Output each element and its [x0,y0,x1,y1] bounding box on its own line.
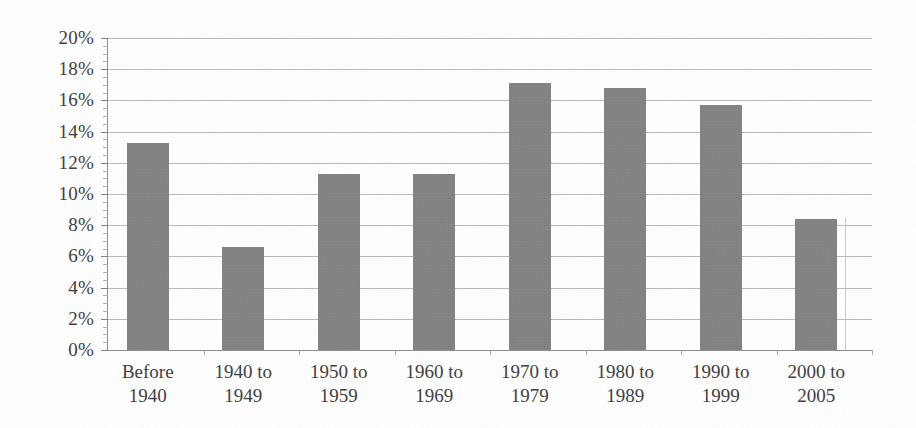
bar-chart: 0%2%4%6%8%10%12%14%16%18%20% Before19401… [0,0,916,428]
x-tick-label-line2: 1999 [673,384,769,408]
x-tick-label-line1: 1950 to [291,360,387,384]
y-tick-major [101,288,108,289]
y-tick-major [101,319,108,320]
x-tick-label-line2: 1940 [100,384,196,408]
x-tick-label: Before1940 [100,360,196,408]
x-tick-label-line1: 1940 to [196,360,292,384]
x-tick-mark [395,350,396,355]
y-tick-minor [103,116,108,117]
x-tick-label-line2: 2005 [769,384,865,408]
bar [413,174,455,350]
x-tick-mark [299,350,300,355]
y-tick-minor [103,171,108,172]
bar [700,105,742,350]
x-tick-label-line1: 1990 to [673,360,769,384]
x-tick-label-line1: 1970 to [482,360,578,384]
y-tick-minor [103,334,108,335]
bar [509,83,551,350]
x-tick-label: 1970 to1979 [482,360,578,408]
bar [222,247,264,350]
y-tick-minor [103,280,108,281]
gridline [108,100,872,101]
gridline [108,225,872,226]
bar [795,219,837,350]
y-tick-minor [103,233,108,234]
y-tick-label: 20% [32,28,94,47]
y-tick-minor [103,202,108,203]
y-tick-major [101,225,108,226]
x-tick-label-line1: 2000 to [769,360,865,384]
x-tick-label: 2000 to2005 [769,360,865,408]
x-axis-labels: Before19401940 to19491950 to19591960 to1… [0,360,916,420]
y-tick-minor [103,249,108,250]
y-tick-minor [103,327,108,328]
gridline [108,38,872,39]
y-tick-major [101,194,108,195]
y-tick-minor [103,108,108,109]
y-tick-minor [103,178,108,179]
y-tick-label: 12% [32,153,94,172]
y-tick-major [101,256,108,257]
gridline [108,132,872,133]
y-tick-major [101,38,108,39]
y-tick-label: 10% [32,184,94,203]
y-tick-minor [103,303,108,304]
bar [318,174,360,350]
y-tick-label: 14% [32,122,94,141]
y-tick-major [101,132,108,133]
y-tick-major [101,350,108,351]
y-tick-minor [103,46,108,47]
y-tick-label: 4% [32,278,94,297]
bar [127,143,169,350]
y-tick-minor [103,241,108,242]
y-tick-label: 2% [32,309,94,328]
x-tick-label: 1940 to1949 [196,360,292,408]
x-tick-label: 1990 to1999 [673,360,769,408]
y-tick-label: 8% [32,215,94,234]
y-tick-minor [103,77,108,78]
y-tick-minor [103,186,108,187]
y-tick-major [101,100,108,101]
y-tick-minor [103,93,108,94]
x-tick-label-line2: 1979 [482,384,578,408]
x-tick-label-line2: 1989 [578,384,674,408]
y-tick-major [101,163,108,164]
x-tick-mark [777,350,778,355]
gridline [108,163,872,164]
plot-area [108,38,872,350]
y-tick-label: 6% [32,246,94,265]
y-tick-minor [103,264,108,265]
bar [604,88,646,350]
x-tick-label-line1: Before [100,360,196,384]
y-tick-minor [103,61,108,62]
x-tick-label: 1980 to1989 [578,360,674,408]
y-tick-minor [103,155,108,156]
gridline [108,69,872,70]
x-tick-label-line1: 1960 to [387,360,483,384]
x-tick-label-line2: 1949 [196,384,292,408]
gridline [108,194,872,195]
y-tick-label: 0% [32,340,94,359]
y-tick-minor [103,295,108,296]
y-tick-label: 18% [32,59,94,78]
y-tick-minor [103,210,108,211]
y-tick-minor [103,124,108,125]
y-tick-minor [103,54,108,55]
y-tick-minor [103,272,108,273]
y-tick-major [101,69,108,70]
x-tick-mark [204,350,205,355]
y-tick-minor [103,85,108,86]
x-tick-mark [490,350,491,355]
x-tick-label-line2: 1959 [291,384,387,408]
y-tick-minor [103,311,108,312]
y-tick-minor [103,147,108,148]
x-tick-label: 1950 to1959 [291,360,387,408]
x-tick-mark [681,350,682,355]
y-tick-label: 16% [32,90,94,109]
y-tick-minor [103,139,108,140]
x-tick-label: 1960 to1969 [387,360,483,408]
x-tick-mark [586,350,587,355]
x-tick-mark [872,350,873,355]
y-tick-minor [103,342,108,343]
x-tick-label-line1: 1980 to [578,360,674,384]
